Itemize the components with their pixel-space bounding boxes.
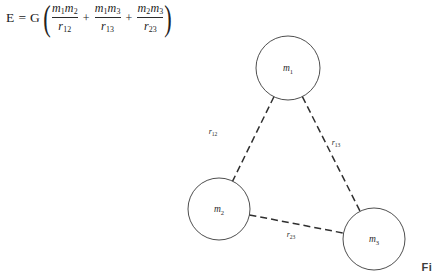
mass-label-m2: m2 — [214, 204, 224, 216]
edge-label-r13: r13 — [332, 138, 341, 148]
diagram-node-labels: m1 m2 m3 — [214, 63, 380, 246]
mass-label-m1: m1 — [283, 63, 293, 75]
mass-label-m3: m3 — [369, 234, 380, 246]
edge-r13 — [302, 97, 360, 212]
edge-label-r23: r23 — [287, 230, 296, 240]
edge-r12 — [233, 97, 274, 181]
edge-r23 — [249, 215, 343, 233]
diagram-edge-labels: r12 r13 r23 — [209, 127, 341, 240]
figure-caption-fragment: Fi — [422, 261, 432, 273]
diagram-edges — [233, 97, 360, 234]
three-body-diagram: m1 m2 m3 r12 r13 r23 — [0, 0, 434, 275]
edge-label-r12: r12 — [209, 127, 218, 137]
